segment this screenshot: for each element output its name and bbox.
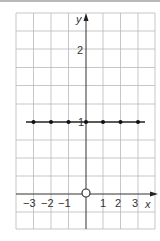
x-tick-2: 2 xyxy=(115,197,121,209)
x-tick-neg1: −1 xyxy=(58,197,71,209)
x-axis-label: x xyxy=(144,198,151,210)
x-tick-neg2: −2 xyxy=(41,197,54,209)
origin-marker xyxy=(82,189,90,197)
y-axis-label: y xyxy=(75,13,83,25)
x-axis-arrow-icon xyxy=(150,192,158,197)
y-tick-1: 1 xyxy=(78,116,84,128)
graph: y x 2 1 −3 −2 −1 1 2 3 xyxy=(0,0,160,241)
y-tick-2: 2 xyxy=(77,44,83,56)
x-tick-3: 3 xyxy=(132,197,138,209)
x-tick-neg3: −3 xyxy=(23,197,36,209)
y-axis-arrow-icon xyxy=(84,13,89,21)
x-tick-1: 1 xyxy=(100,197,106,209)
